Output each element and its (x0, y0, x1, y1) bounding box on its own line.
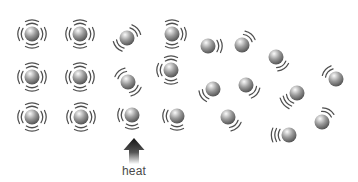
vibration-arc (271, 128, 272, 142)
vibration-arc (25, 90, 38, 92)
vibration-arc (45, 110, 47, 123)
vibration-arc (18, 110, 20, 123)
vibration-arc (94, 110, 96, 123)
vibration-arc (26, 106, 37, 108)
particle-sphere (170, 109, 185, 124)
particle-sphere (164, 63, 179, 78)
vibration-arc (118, 108, 120, 121)
vibration-arc (66, 27, 68, 40)
vibration-arc (21, 111, 23, 122)
particle (269, 50, 289, 71)
vibration-arc (73, 47, 86, 49)
particle-sphere (74, 110, 89, 125)
vibration-arc (164, 83, 177, 85)
vibration-arc (165, 59, 176, 61)
particle (235, 31, 256, 52)
particle (163, 109, 185, 131)
vibration-arc (41, 111, 43, 122)
particle (315, 108, 334, 130)
vibration-arc (121, 109, 123, 120)
vibration-arc (73, 20, 86, 22)
vibration-arc (90, 111, 92, 122)
vibration-arc (278, 129, 280, 140)
vibration-arc (165, 47, 178, 49)
vibration-arc (74, 86, 85, 88)
vibration-arc (41, 71, 43, 82)
particle-sphere (235, 38, 250, 53)
vibration-arc (74, 130, 87, 132)
vibration-arc (69, 71, 71, 82)
particle-sphere (290, 86, 305, 101)
vibration-arc (166, 23, 177, 25)
vibration-arc (41, 28, 43, 39)
vibration-arc (21, 28, 23, 39)
vibration-arc (25, 47, 38, 49)
particle-sphere (206, 82, 221, 97)
heat-arrow (124, 138, 145, 164)
vibration-arc (73, 90, 86, 92)
vibration-arc (89, 71, 91, 82)
vibration-arc (67, 110, 69, 123)
particle-sphere (315, 115, 330, 130)
vibration-arc (93, 70, 95, 83)
vibration-arc (221, 39, 223, 52)
particle (18, 103, 46, 131)
vibration-arc (45, 27, 47, 40)
particle (322, 66, 343, 87)
vibration-arc (74, 23, 85, 25)
vibration-arc (75, 106, 86, 108)
particle (66, 20, 94, 48)
vibration-arc (166, 43, 177, 45)
vibration-arc (171, 125, 182, 127)
particle (201, 39, 223, 54)
particle (199, 82, 220, 102)
vibration-arc (165, 20, 178, 22)
vibration-arc (74, 103, 87, 105)
vibration-arc (181, 28, 183, 39)
particle (118, 108, 140, 130)
vibration-arc (25, 130, 38, 132)
vibration-arc (75, 126, 86, 128)
vibration-arc (74, 66, 85, 68)
vibration-arc (26, 126, 37, 128)
vibration-arc (26, 66, 37, 68)
vibration-arc (164, 56, 177, 58)
particle-sphere (73, 70, 88, 85)
particle-sphere (282, 128, 297, 143)
vibration-arc (74, 43, 85, 45)
particle-sphere (120, 31, 135, 46)
diagram-canvas (0, 0, 358, 182)
vibration-arc (26, 43, 37, 45)
particle-sphere (221, 110, 236, 125)
particle (271, 128, 296, 143)
particle-sphere (121, 75, 136, 90)
particle-sphere (73, 27, 88, 42)
particle (221, 110, 242, 131)
particle-diagram: heat (0, 0, 358, 182)
vibration-arc (73, 63, 86, 65)
particle (239, 78, 260, 99)
vibration-arc (25, 63, 38, 65)
vibration-arc (25, 103, 38, 105)
particle-sphere (165, 27, 180, 42)
vibration-arc (185, 27, 187, 40)
vibration-arc (26, 23, 37, 25)
vibration-arc (70, 111, 72, 122)
particle (165, 20, 187, 48)
particle-sphere (125, 108, 140, 123)
particle-sphere (329, 72, 344, 87)
vibration-arc (45, 70, 47, 83)
particle-sphere (25, 27, 40, 42)
vibration-arc (170, 129, 183, 131)
particle (66, 63, 94, 91)
particle (280, 86, 304, 109)
particle (18, 20, 46, 48)
particle-sphere (269, 50, 284, 65)
vibration-arc (275, 128, 277, 141)
vibration-arc (89, 28, 91, 39)
vibration-arc (165, 79, 176, 81)
particle (113, 25, 140, 51)
particle-sphere (201, 39, 216, 54)
particle-sphere (25, 110, 40, 125)
particle-sphere (239, 78, 254, 93)
